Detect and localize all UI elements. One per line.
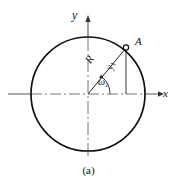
y-axis-label: y xyxy=(72,9,77,21)
point-a-label: A xyxy=(135,36,142,47)
angle-label-subscript: 1 xyxy=(105,81,108,88)
circle-diagram xyxy=(0,0,177,188)
projection-label-subscript: 1 xyxy=(109,62,117,67)
angle-label-base: ω xyxy=(98,76,105,87)
figure-container: y x A R y1 ω1 (a) xyxy=(0,0,177,188)
x-axis-label: x xyxy=(163,88,168,99)
figure-caption: (a) xyxy=(0,164,177,176)
y-axis-arrowhead xyxy=(85,15,90,22)
angle-label: ω1 xyxy=(98,77,108,89)
point-a-marker xyxy=(123,45,128,50)
